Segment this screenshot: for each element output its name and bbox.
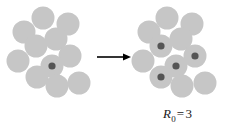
infection-marker-dot — [157, 42, 164, 49]
right-population-cluster — [132, 7, 217, 98]
transition-arrow — [97, 54, 131, 61]
r0-value: 3 — [185, 106, 192, 121]
susceptible-individual-circle — [25, 35, 48, 58]
infection-marker-dot — [157, 73, 164, 80]
r0-equals-sign: = — [177, 106, 185, 121]
left-population-cluster — [7, 7, 91, 98]
susceptible-individual-circle — [32, 7, 55, 30]
susceptible-individual-circle — [26, 66, 49, 89]
infection-marker-dot — [172, 62, 179, 69]
r0-transmission-diagram: R0=3 — [0, 0, 227, 136]
infection-marker-dot — [191, 52, 198, 59]
r0-symbol: R — [163, 106, 171, 121]
r0-value-label: R0=3 — [163, 106, 192, 124]
r0-subscript: 0 — [171, 114, 176, 124]
susceptible-individual-circle — [68, 72, 91, 95]
susceptible-individual-circle — [194, 72, 217, 95]
infection-marker-dot — [48, 62, 55, 69]
diagram-canvas — [0, 0, 227, 136]
susceptible-individual-circle — [171, 75, 194, 98]
arrow-head — [123, 54, 131, 61]
susceptible-individual-circle — [132, 50, 155, 73]
susceptible-individual-circle — [46, 75, 69, 98]
susceptible-individual-circle — [7, 50, 30, 73]
susceptible-individual-circle — [156, 7, 179, 30]
